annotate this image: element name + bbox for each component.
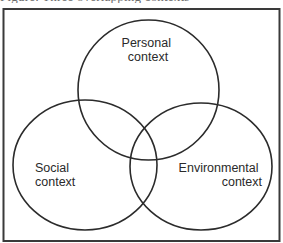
label-social-line-2: context [35,175,76,189]
label-personal-line-1: Personal [122,36,171,50]
label-environmental-line-1: Environmental [179,161,259,175]
venn-diagram: Personal context Social context Environm… [0,0,283,243]
label-social-line-1: Social [35,161,69,175]
label-environmental: Environmental context [179,161,263,189]
label-personal-line-2: context [128,50,169,64]
label-social: Social context [35,161,76,189]
label-personal: Personal context [122,36,175,64]
label-environmental-line-2: context [222,175,263,189]
